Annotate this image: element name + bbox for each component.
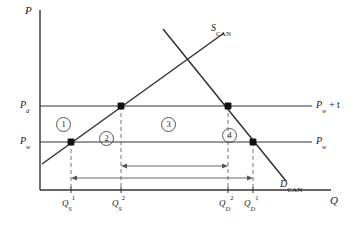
supply-curve-label: SCAN [211, 22, 231, 36]
demand-curve [163, 29, 286, 181]
tick-label-qs1: QS1 [62, 196, 75, 210]
x-axis-label: Q [330, 194, 338, 206]
right-label-pw-plus-t: Pw + t [316, 99, 340, 112]
tick-label-qs2: QS2 [112, 196, 125, 210]
region-label-3: 3 [161, 117, 176, 132]
point-demand-pd [225, 103, 232, 110]
region-label-4: 4 [222, 128, 237, 143]
tick-label-qd2: QD2 [219, 196, 233, 210]
point-supply-pw [68, 139, 75, 146]
region-label-1: 1 [56, 117, 71, 132]
y-axis-label: P [25, 4, 32, 16]
right-label-pw: Pw [316, 135, 326, 148]
demand-curve-label: DCAN [280, 178, 302, 192]
point-supply-pd [118, 103, 125, 110]
tick-label-qd1: QD1 [244, 196, 258, 210]
price-label-pw: Pw [20, 135, 30, 148]
outer-span-arrow [71, 175, 253, 180]
region-label-2: 2 [99, 131, 114, 146]
inner-span-arrow [121, 163, 228, 168]
supply-demand-tariff-figure [0, 0, 350, 230]
point-demand-pw [250, 139, 257, 146]
price-label-pd: Pd [20, 99, 29, 112]
